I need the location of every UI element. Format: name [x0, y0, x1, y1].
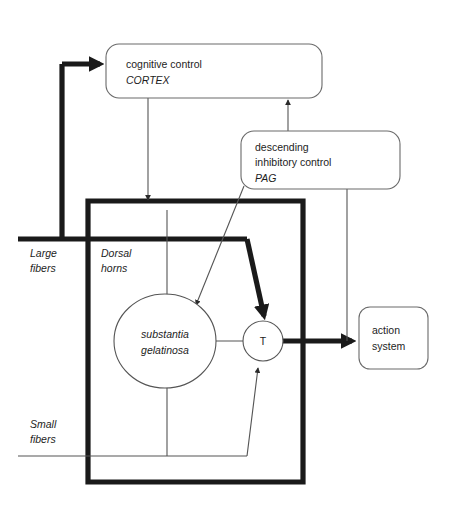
small-fiber-to-transmission-arrow: [247, 368, 258, 456]
diagram-canvas: cognitive control CORTEX descending inhi…: [0, 0, 468, 510]
pag-label-line1: descending: [255, 141, 309, 153]
small-fibers-label-line2: fibers: [30, 433, 56, 445]
transmission-cell-node[interactable]: T: [243, 321, 283, 361]
substantia-label-line1: substantia: [141, 328, 189, 340]
cortex-label-line2: CORTEX: [126, 74, 171, 86]
pag-label-line2: inhibitory control: [255, 156, 331, 168]
dorsal-horns-label-line1: Dorsal: [101, 247, 132, 259]
action-system-label-line1: action: [372, 324, 400, 336]
pag-to-substantia-arrow: [196, 186, 244, 305]
substantia-label-line2: gelatinosa: [141, 344, 189, 356]
dorsal-horns-label: Dorsal horns: [101, 247, 132, 274]
pag-node[interactable]: descending inhibitory control PAG: [241, 131, 400, 189]
dorsal-horns-label-line2: horns: [101, 262, 128, 274]
cortex-node[interactable]: cognitive control CORTEX: [106, 44, 322, 98]
large-fibers-label: Large fibers: [30, 247, 57, 274]
small-fibers-label: Small fibers: [30, 418, 57, 445]
action-system-node[interactable]: action system: [359, 307, 428, 369]
cortex-label-line1: cognitive control: [126, 58, 202, 70]
small-fibers-label-line1: Small: [30, 418, 57, 430]
pag-label-line3: PAG: [255, 172, 276, 184]
large-fibers-label-line1: Large: [30, 247, 57, 259]
transmission-label: T: [260, 335, 267, 347]
large-fiber-thick-pathway: [18, 64, 264, 316]
action-system-label-line2: system: [372, 340, 406, 352]
large-fibers-label-line2: fibers: [30, 262, 56, 274]
substantia-gelatinosa-node[interactable]: substantia gelatinosa: [114, 294, 216, 388]
gate-control-diagram: cognitive control CORTEX descending inhi…: [0, 0, 468, 510]
